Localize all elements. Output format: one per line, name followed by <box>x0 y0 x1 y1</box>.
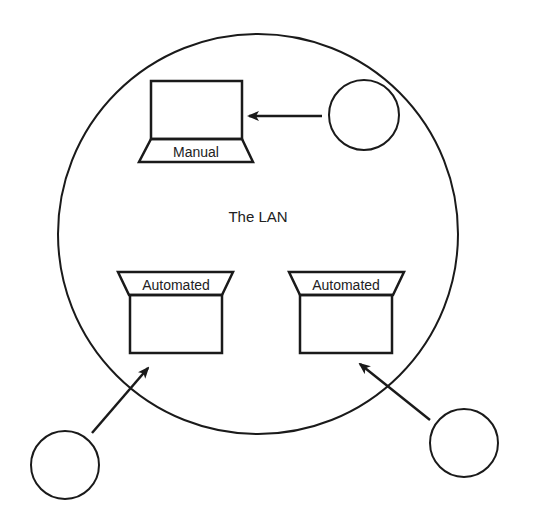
external-node-bottom-right <box>430 409 498 477</box>
computer-label: Automated <box>312 277 380 293</box>
computer-auto-left: Automated <box>118 272 233 353</box>
computer-label: Manual <box>173 144 219 160</box>
lan-diagram: The LAN Manual Automated Automated <box>0 0 543 524</box>
laptop-screen <box>130 295 222 353</box>
computer-manual: Manual <box>139 81 253 162</box>
external-node-top-right <box>329 80 399 150</box>
computer-label: Automated <box>142 277 210 293</box>
external-node-bottom-left <box>31 431 99 499</box>
laptop-screen <box>300 295 392 353</box>
computer-auto-right: Automated <box>289 272 404 353</box>
arrow-to-auto-right <box>360 364 430 420</box>
laptop-screen <box>151 81 242 139</box>
lan-boundary <box>58 34 458 434</box>
lan-label: The LAN <box>228 208 287 225</box>
